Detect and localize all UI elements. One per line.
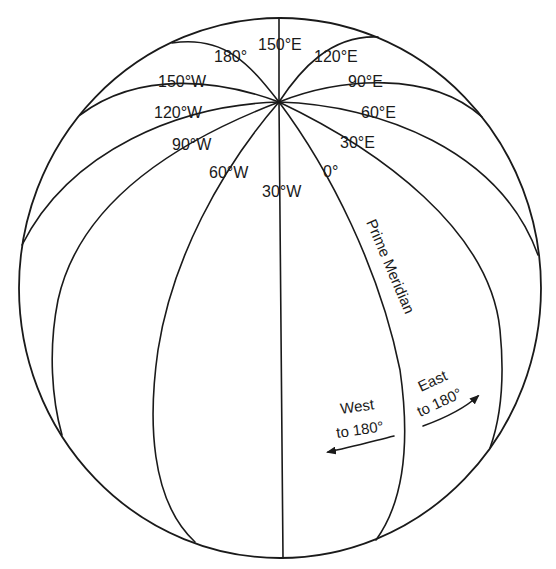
label-60w: 60°W — [209, 164, 249, 181]
globe-diagram: 150°E 180° 120°E 150°W 90°E 120°W 60°E 9… — [0, 0, 556, 569]
label-90w: 90°W — [172, 136, 212, 153]
meridian-90w — [52, 102, 279, 435]
west-label-line2: to 180° — [335, 417, 385, 440]
label-60e: 60°E — [361, 104, 396, 121]
label-150e: 150°E — [258, 36, 302, 53]
label-30e: 30°E — [340, 134, 375, 151]
label-120w: 120°W — [154, 104, 203, 121]
label-0: 0° — [323, 163, 338, 180]
meridian-60e — [279, 102, 538, 255]
label-180: 180° — [214, 48, 247, 65]
label-90e: 90°E — [348, 73, 383, 90]
label-120e: 120°E — [314, 48, 358, 65]
prime-meridian-label: Prime Meridian — [363, 217, 418, 316]
label-150w: 150°W — [158, 73, 207, 90]
prime-meridian — [279, 102, 405, 540]
label-30w: 30°W — [262, 183, 302, 200]
west-label-line1: West — [339, 395, 376, 417]
